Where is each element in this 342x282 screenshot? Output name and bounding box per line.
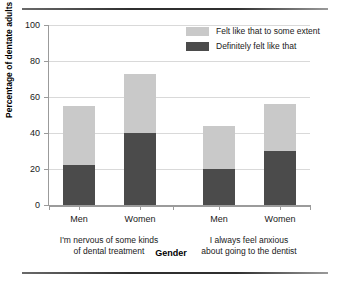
y-tick-label-80: 80 bbox=[30, 56, 40, 66]
legend-item-definitely[interactable]: Definitely felt like that bbox=[186, 41, 320, 51]
group-label-line1: I always feel anxious bbox=[201, 235, 296, 246]
bar-men-anxious[interactable] bbox=[203, 126, 235, 205]
legend-label-some-extent: Felt like that to some extent bbox=[216, 26, 320, 36]
bar-segment-light bbox=[124, 74, 156, 133]
y-tick-100 bbox=[44, 25, 49, 26]
y-tick-label-60: 60 bbox=[30, 92, 40, 102]
legend-item-some-extent[interactable]: Felt like that to some extent bbox=[186, 26, 320, 36]
x-tick-group-divider bbox=[173, 205, 174, 210]
x-label-women-anxious: Women bbox=[265, 214, 296, 224]
y-tick-20 bbox=[44, 169, 49, 170]
y-tick-label-40: 40 bbox=[30, 128, 40, 138]
bar-segment-light bbox=[264, 104, 296, 151]
y-tick-label-100: 100 bbox=[25, 20, 40, 30]
axis-baseline bbox=[49, 205, 310, 207]
gridline-60 bbox=[49, 97, 310, 98]
chart-legend: Felt like that to some extent Definitely… bbox=[186, 26, 320, 56]
group-label-nervous: I'm nervous of some kinds of dental trea… bbox=[60, 235, 158, 257]
bottom-divider-rule bbox=[22, 272, 328, 274]
x-tick-women-nervous bbox=[140, 205, 141, 210]
x-tick-axis-end bbox=[310, 205, 311, 210]
bar-segment-dark bbox=[203, 169, 235, 205]
bar-segment-dark bbox=[124, 133, 156, 205]
group-label-line2: of dental treatment bbox=[60, 246, 158, 257]
bar-segment-light bbox=[203, 126, 235, 169]
x-tick-axis-start bbox=[49, 205, 50, 210]
bar-segment-dark bbox=[63, 165, 95, 205]
x-tick-men-anxious bbox=[219, 205, 220, 210]
chart-figure: Percentage of dentate adults Gender 100 … bbox=[0, 0, 342, 282]
x-label-men-anxious: Men bbox=[210, 214, 228, 224]
group-label-anxious: I always feel anxious about going to the… bbox=[201, 235, 296, 257]
top-divider-rule bbox=[22, 8, 328, 10]
x-tick-women-anxious bbox=[280, 205, 281, 210]
bar-women-anxious[interactable] bbox=[264, 104, 296, 205]
bar-segment-light bbox=[63, 106, 95, 165]
legend-label-definitely: Definitely felt like that bbox=[216, 41, 296, 51]
x-tick-men-nervous bbox=[79, 205, 80, 210]
group-label-line1: I'm nervous of some kinds bbox=[60, 235, 158, 246]
x-label-men-nervous: Men bbox=[70, 214, 88, 224]
x-label-women-nervous: Women bbox=[125, 214, 156, 224]
bar-men-nervous[interactable] bbox=[63, 106, 95, 205]
gridline-80 bbox=[49, 61, 310, 62]
y-tick-label-20: 20 bbox=[30, 164, 40, 174]
bar-segment-dark bbox=[264, 151, 296, 205]
y-axis-title: Percentage of dentate adults bbox=[4, 2, 14, 118]
y-tick-80 bbox=[44, 61, 49, 62]
bar-women-nervous[interactable] bbox=[124, 74, 156, 205]
legend-swatch-dark-icon bbox=[186, 42, 209, 51]
group-label-line2: about going to the dentist bbox=[201, 246, 296, 257]
legend-swatch-light-icon bbox=[186, 27, 209, 36]
y-tick-label-0: 0 bbox=[35, 200, 40, 210]
y-tick-40 bbox=[44, 133, 49, 134]
y-tick-60 bbox=[44, 97, 49, 98]
